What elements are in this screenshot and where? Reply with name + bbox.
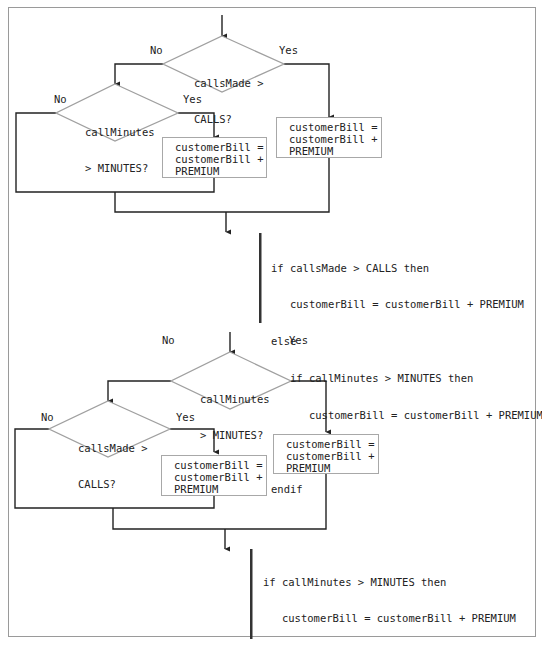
- no-label: No: [162, 334, 175, 346]
- code-line: endif: [271, 483, 542, 495]
- process-line: customerBill +: [289, 133, 381, 145]
- code-line: if callMinutes > MINUTES then: [271, 372, 542, 384]
- process-box: customerBill = customerBill + PREMIUM: [273, 434, 379, 474]
- process-line: PREMIUM: [175, 165, 266, 177]
- decision-text: callMinutes > MINUTES?: [85, 102, 155, 186]
- yes-label: Yes: [183, 93, 202, 105]
- code-line: customerBill = customerBill + PREMIUM: [271, 298, 542, 310]
- code-line: if callsMade > CALLS then: [271, 262, 542, 274]
- decision-text: callMinutes > MINUTES?: [200, 369, 270, 453]
- code-line: customerBill = customerBill + PREMIUM: [263, 612, 535, 624]
- decision-line: callMinutes: [200, 393, 270, 405]
- process-box: customerBill = customerBill + PREMIUM: [162, 137, 267, 178]
- yes-label: Yes: [289, 334, 308, 346]
- code-line: customerBill = customerBill + PREMIUM: [271, 409, 542, 421]
- process-line: customerBill =: [174, 459, 266, 471]
- process-box: customerBill = customerBill + PREMIUM: [161, 455, 267, 496]
- process-line: customerBill =: [175, 141, 266, 153]
- process-line: customerBill +: [286, 450, 378, 462]
- no-label: No: [54, 93, 67, 105]
- decision-line: CALLS?: [194, 113, 264, 125]
- no-label: No: [41, 411, 54, 423]
- process-line: PREMIUM: [289, 145, 381, 157]
- process-line: PREMIUM: [286, 462, 378, 474]
- no-label: No: [150, 44, 163, 56]
- decision-line: > MINUTES?: [85, 162, 155, 174]
- process-line: customerBill +: [175, 153, 266, 165]
- decision-line: callMinutes: [85, 126, 155, 138]
- pseudocode-block: if callMinutes > MINUTES then customerBi…: [263, 551, 535, 647]
- process-box: customerBill = customerBill + PREMIUM: [276, 117, 382, 158]
- process-line: customerBill =: [286, 438, 378, 450]
- decision-text: callsMade > CALLS?: [78, 418, 148, 502]
- yes-label: Yes: [279, 44, 298, 56]
- decision-line: callsMade >: [194, 77, 264, 89]
- code-line: else: [271, 335, 542, 347]
- decision-line: CALLS?: [78, 478, 148, 490]
- yes-label: Yes: [176, 411, 195, 423]
- decision-line: callsMade >: [78, 442, 148, 454]
- process-line: PREMIUM: [174, 483, 266, 495]
- decision-line: > MINUTES?: [200, 429, 270, 441]
- code-line: if callMinutes > MINUTES then: [263, 576, 535, 588]
- process-line: customerBill =: [289, 121, 381, 133]
- decision-text: callsMade > CALLS?: [194, 53, 264, 137]
- process-line: customerBill +: [174, 471, 266, 483]
